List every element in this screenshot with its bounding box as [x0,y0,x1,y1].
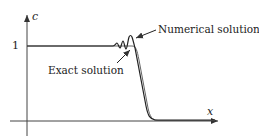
exact-solution-label: Exact solution [48,64,124,76]
solution-diagram: c x 1 Numerical solution Exact solution [0,0,259,140]
numerical-solution-pointer [136,30,156,38]
y-tick-label-1: 1 [12,39,19,52]
numerical-solution-curve [27,36,215,121]
exact-solution-curve [27,46,215,121]
x-axis-label: x [207,105,214,118]
exact-solution-pointer [117,50,130,63]
y-axis-label: c [32,10,38,23]
numerical-solution-label: Numerical solution [158,23,259,35]
